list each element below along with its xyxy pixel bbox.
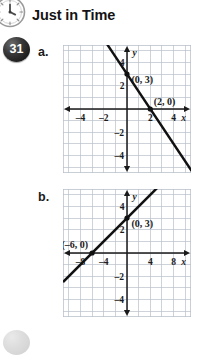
svg-text:–4: –4 xyxy=(98,257,109,267)
svg-text:4: 4 xyxy=(148,257,153,267)
svg-text:(0, 3): (0, 3) xyxy=(132,218,154,230)
svg-text:–2: –2 xyxy=(98,113,109,123)
problem-number-badge: 31 xyxy=(3,37,30,62)
svg-text:–4: –4 xyxy=(75,113,86,123)
svg-text:–4: –4 xyxy=(114,151,125,161)
svg-text:(–6, 0): (–6, 0) xyxy=(63,239,88,251)
svg-text:2: 2 xyxy=(120,81,125,91)
part-a-label: a. xyxy=(38,45,48,59)
svg-text:x: x xyxy=(180,113,186,123)
page-title: Just in Time xyxy=(32,7,115,23)
graph-b-panel: –8–448–4–224xy(0, 3)(–6, 0) xyxy=(63,189,191,317)
svg-text:4: 4 xyxy=(120,202,125,212)
svg-text:–2: –2 xyxy=(114,272,125,282)
svg-text:2: 2 xyxy=(120,225,125,235)
svg-text:x: x xyxy=(180,257,186,267)
svg-text:y: y xyxy=(132,48,138,58)
graph-a-svg: –4–224–4–224xy(0, 3)(2, 0) xyxy=(63,45,191,173)
svg-text:–4: –4 xyxy=(114,295,125,305)
svg-text:y: y xyxy=(132,192,138,202)
problem-number-label: 31 xyxy=(3,37,30,62)
graph-a-panel: –4–224–4–224xy(0, 3)(2, 0) xyxy=(63,45,191,173)
next-problem-badge-partial xyxy=(3,330,30,355)
clock-icon xyxy=(0,0,28,30)
graph-b-svg: –8–448–4–224xy(0, 3)(–6, 0) xyxy=(63,189,191,317)
part-b-label: b. xyxy=(38,190,49,204)
section-header: Just in Time xyxy=(0,0,199,34)
svg-text:(0, 3): (0, 3) xyxy=(132,74,154,86)
svg-text:4: 4 xyxy=(171,113,176,123)
svg-text:–2: –2 xyxy=(114,128,125,138)
svg-text:8: 8 xyxy=(171,257,176,267)
svg-text:(2, 0): (2, 0) xyxy=(154,96,176,108)
